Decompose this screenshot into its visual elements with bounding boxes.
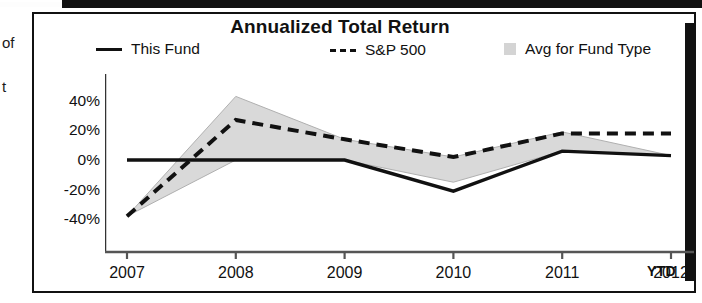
solid-line-swatch-icon: [96, 48, 122, 51]
chart-figure-frame: Annualized Total Return This Fund S&P 50…: [32, 12, 696, 293]
avg-fund-type-band: [127, 96, 671, 216]
scan-top-bar: [0, 0, 702, 9]
legend-label: This Fund: [131, 40, 200, 58]
legend-item-avg-fund-type: Avg for Fund Type: [504, 40, 651, 58]
x-axis-tick-labels: 200720082009201020112012: [94, 260, 696, 290]
margin-text-fragment: of: [2, 34, 15, 51]
y-axis-tick-labels: 40%20%0%-20%-40%: [34, 74, 100, 259]
chart-plot-area: [105, 74, 695, 259]
chart-title: Annualized Total Return: [34, 16, 646, 38]
x-axis-tick-label: 2008: [206, 264, 266, 282]
legend-item-this-fund: This Fund: [96, 40, 200, 58]
legend-label: Avg for Fund Type: [525, 40, 651, 58]
y-axis-tick-label: -20%: [64, 181, 100, 199]
margin-text-fragment: t: [2, 78, 6, 95]
legend-label: S&P 500: [365, 41, 426, 59]
y-axis-tick-label: 0%: [78, 151, 100, 169]
x-axis-tick-label: 2011: [532, 264, 592, 282]
legend-item-sp500: S&P 500: [330, 41, 426, 59]
dashed-line-swatch-icon: [330, 49, 356, 52]
scan-bar-left-segment: [0, 2, 62, 7]
chart-legend: This Fund S&P 500 Avg for Fund Type: [34, 40, 674, 62]
x-axis-tick-label: 2010: [423, 264, 483, 282]
y-axis-tick-label: -40%: [64, 210, 100, 228]
scan-bar-dark-segment: [62, 0, 702, 8]
y-axis-tick-label: 40%: [69, 92, 100, 110]
ytd-annotation: YTD: [647, 263, 676, 279]
chart-svg: [105, 74, 695, 259]
filled-area-swatch-icon: [504, 43, 516, 55]
y-axis-tick-label: 20%: [69, 121, 100, 139]
x-axis-tick-label: 2009: [315, 264, 375, 282]
x-axis-tick-label: 2007: [97, 264, 157, 282]
